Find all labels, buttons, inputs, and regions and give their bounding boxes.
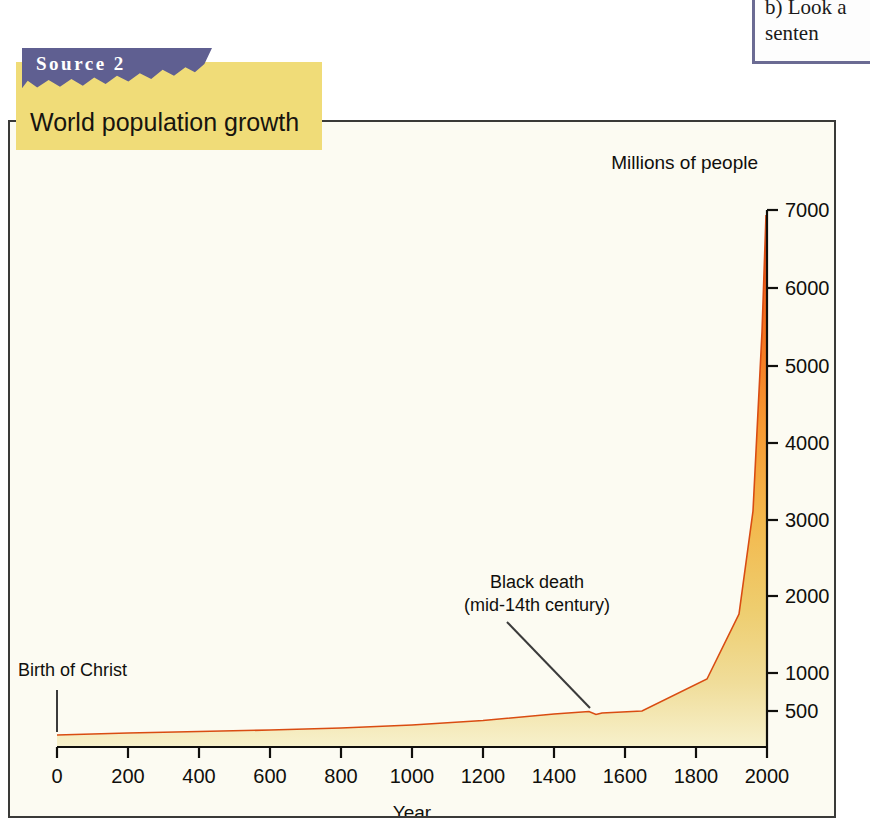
x-tick-label: 1000	[390, 765, 435, 787]
chart-frame: 0 200 400 600 800 1000 1200 1400 1600 18…	[8, 120, 836, 818]
x-tick-label: 1200	[461, 765, 506, 787]
x-tick-label: 0	[51, 765, 62, 787]
y-axis-ticks	[767, 210, 778, 711]
source-banner-label: Source 2	[36, 53, 126, 75]
x-tick-label: 1400	[532, 765, 577, 787]
x-tick-label: 800	[324, 765, 357, 787]
x-tick-label: 600	[253, 765, 286, 787]
x-tick-label: 2000	[745, 765, 790, 787]
x-axis-title: Year	[393, 802, 432, 816]
x-tick-label: 1600	[603, 765, 648, 787]
population-curve	[57, 215, 766, 735]
x-tick-label: 200	[111, 765, 144, 787]
annotation-black-death: Black death (mid-14th century)	[464, 572, 610, 708]
source-banner: Source 2	[22, 48, 212, 90]
y-axis-tick-labels: 500 1000 2000 3000 4000 5000 6000 7000	[785, 199, 830, 722]
exercise-question-box: b) Look a senten	[752, 0, 870, 64]
exercise-line-a: b) Look a	[765, 0, 847, 20]
y-axis-title: Millions of people	[611, 152, 758, 173]
x-tick-label: 400	[182, 765, 215, 787]
y-tick-label: 2000	[785, 585, 830, 607]
y-tick-label: 4000	[785, 432, 830, 454]
population-area-chart: 0 200 400 600 800 1000 1200 1400 1600 18…	[10, 122, 834, 816]
y-tick-label: 500	[785, 700, 818, 722]
annotation-black-death-line2: (mid-14th century)	[464, 595, 610, 615]
population-area	[57, 215, 766, 747]
y-tick-label: 7000	[785, 199, 830, 221]
annotation-black-death-line1: Black death	[490, 572, 584, 592]
exercise-line-b: senten	[765, 21, 819, 46]
y-tick-label: 6000	[785, 277, 830, 299]
annotation-birth-of-christ: Birth of Christ	[18, 660, 127, 732]
x-axis-tick-labels: 0 200 400 600 800 1000 1200 1400 1600 18…	[51, 765, 789, 787]
annotation-birth-of-christ-label: Birth of Christ	[18, 660, 127, 680]
x-axis-ticks	[57, 747, 767, 758]
y-tick-label: 5000	[785, 355, 830, 377]
y-tick-label: 1000	[785, 662, 830, 684]
chart-title: World population growth	[30, 108, 299, 137]
x-tick-label: 1800	[674, 765, 719, 787]
y-tick-label: 3000	[785, 509, 830, 531]
